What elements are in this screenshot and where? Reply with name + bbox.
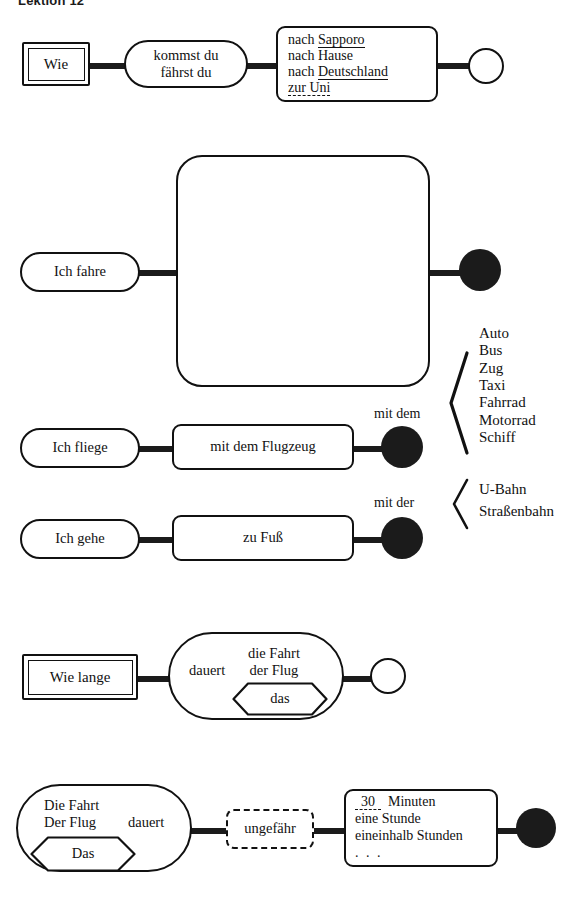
terminal-filled-circle-row3 bbox=[381, 426, 423, 468]
terminal-filled-circle-row2 bbox=[459, 249, 501, 291]
transport-item: Schiff bbox=[479, 429, 515, 446]
node-question-word-wie[interactable]: Wie bbox=[22, 42, 90, 86]
brace-mit-der-icon bbox=[450, 477, 470, 531]
label-ich-fahre: Ich fahre bbox=[54, 264, 106, 280]
subject-line: die Fahrt bbox=[248, 645, 300, 662]
duration-item: . . . bbox=[355, 845, 383, 862]
connector-row1-c bbox=[436, 63, 470, 69]
transport-item: Zug bbox=[479, 360, 503, 377]
list-durations: 30 Minuten eine Stunde eineinhalb Stunde… bbox=[346, 794, 463, 861]
transport-item: Straßenbahn bbox=[479, 501, 554, 523]
node-modifier-ungefaehr[interactable]: ungefähr bbox=[226, 809, 314, 849]
connector-row6-a bbox=[188, 828, 230, 834]
transport-item: Fahrrad bbox=[479, 394, 526, 411]
destination-item: zur Uni bbox=[288, 80, 330, 96]
label-das-row5: das bbox=[270, 691, 289, 707]
node-hexagon-das-row5[interactable]: das bbox=[232, 682, 328, 716]
subject-line: Der Flug bbox=[44, 814, 96, 831]
transport-item: U-Bahn bbox=[479, 479, 527, 501]
node-hexagon-das-row6[interactable]: Das bbox=[30, 836, 136, 872]
node-zu-fuss[interactable]: zu Fuß bbox=[172, 515, 354, 561]
node-transport-options[interactable]: mit dem Auto Bus Zug Taxi Fahrrad Motorr… bbox=[176, 155, 430, 387]
connector-row1-b bbox=[246, 63, 278, 69]
label-dauert-row6: dauert bbox=[128, 815, 164, 831]
node-mit-dem-flugzeug[interactable]: mit dem Flugzeug bbox=[172, 424, 354, 470]
duration-item: 30 Minuten bbox=[355, 794, 435, 811]
brace-mit-dem-icon bbox=[448, 350, 470, 456]
list-mit-dem: Auto Bus Zug Taxi Fahrrad Motorrad Schif… bbox=[479, 325, 536, 446]
connector-row1-a bbox=[88, 63, 126, 69]
duration-item: eineinhalb Stunden bbox=[355, 828, 463, 845]
destination-item: nach Sapporo bbox=[288, 32, 365, 48]
label-ungefaehr: ungefähr bbox=[244, 821, 296, 837]
label-mit-dem: mit dem bbox=[374, 406, 420, 421]
connector-row3-a bbox=[138, 446, 174, 452]
node-subject-ich-gehe[interactable]: Ich gehe bbox=[20, 519, 140, 559]
transport-item: Bus bbox=[479, 342, 502, 359]
label-zu-fuss: zu Fuß bbox=[243, 530, 283, 546]
label-ich-fliege: Ich fliege bbox=[52, 440, 107, 456]
node-dauert-subject[interactable]: dauert die Fahrt der Flug das bbox=[168, 632, 344, 720]
list-subjects-row5: die Fahrt der Flug bbox=[248, 645, 300, 679]
verb-line-1: kommst du bbox=[154, 47, 219, 64]
node-subject-ich-fliege[interactable]: Ich fliege bbox=[20, 428, 140, 468]
node-durations[interactable]: 30 Minuten eine Stunde eineinhalb Stunde… bbox=[344, 789, 498, 867]
terminal-open-circle-row1 bbox=[468, 48, 504, 84]
label-mit-dem-flugzeug: mit dem Flugzeug bbox=[210, 439, 316, 455]
label-wie-lange: Wie lange bbox=[50, 669, 111, 685]
label-mit-der: mit der bbox=[374, 495, 414, 510]
duration-item: eine Stunde bbox=[355, 811, 421, 828]
terminal-filled-circle-row6 bbox=[516, 808, 556, 848]
connector-row6-b bbox=[310, 828, 348, 834]
subject-line: der Flug bbox=[250, 662, 299, 679]
page-title: Lektion 12 bbox=[18, 0, 84, 8]
node-subject-fahrt-flug[interactable]: Die Fahrt Der Flug dauert Das bbox=[16, 784, 192, 872]
terminal-open-circle-row5 bbox=[370, 658, 406, 694]
connector-row2-a bbox=[138, 270, 180, 276]
connector-row3-b bbox=[352, 446, 384, 452]
destination-item: nach Hause bbox=[288, 48, 353, 64]
transport-item: Auto bbox=[479, 325, 509, 342]
list-mit-der: U-Bahn Straßenbahn bbox=[479, 479, 554, 523]
node-question-word-wie-lange[interactable]: Wie lange bbox=[22, 654, 138, 700]
worksheet-page: Lektion 12 Wie kommst du fährst du nach … bbox=[0, 0, 572, 903]
subject-line: Die Fahrt bbox=[44, 797, 99, 814]
connector-row5-a bbox=[136, 676, 172, 682]
list-subjects-row6: Die Fahrt Der Flug bbox=[44, 797, 99, 831]
connector-row5-b bbox=[339, 676, 373, 682]
verb-line-2: fährst du bbox=[160, 64, 211, 81]
terminal-filled-circle-row4 bbox=[381, 517, 423, 559]
transport-item: Taxi bbox=[479, 377, 505, 394]
node-destinations[interactable]: nach Sapporo nach Hause nach Deutschland… bbox=[276, 26, 438, 102]
destination-item: nach Deutschland bbox=[288, 64, 388, 80]
label-wie: Wie bbox=[44, 56, 68, 72]
connector-row2-b bbox=[426, 270, 462, 276]
connector-row4-b bbox=[352, 537, 384, 543]
label-ich-gehe: Ich gehe bbox=[55, 531, 105, 547]
connector-row4-a bbox=[138, 537, 174, 543]
label-das-row6: Das bbox=[72, 846, 95, 862]
transport-item: Motorrad bbox=[479, 412, 536, 429]
node-subject-ich-fahre[interactable]: Ich fahre bbox=[20, 252, 140, 292]
label-dauert-row5: dauert bbox=[189, 663, 225, 679]
node-verb-kommst-faehrst[interactable]: kommst du fährst du bbox=[124, 40, 248, 88]
